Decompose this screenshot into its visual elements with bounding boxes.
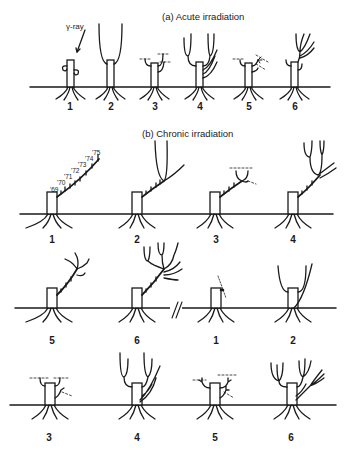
year-label: '75 xyxy=(92,149,100,156)
year-label: '74 xyxy=(85,155,93,162)
stage-label: 1 xyxy=(213,335,219,346)
plant-a1 xyxy=(56,30,85,100)
stage-label: 4 xyxy=(134,432,140,443)
panel-b-title: (b) Chronic irradiation xyxy=(142,128,233,139)
year-label: '71 xyxy=(64,173,72,180)
stage-label: 6 xyxy=(288,432,294,443)
stage-label: 6 xyxy=(292,101,298,112)
stage-label: 3 xyxy=(152,101,158,112)
stage-label: 6 xyxy=(134,335,140,346)
stage-label: 1 xyxy=(49,234,55,245)
panel-a-title: (a) Acute irradiation xyxy=(162,11,244,22)
stage-label: 2 xyxy=(108,101,114,112)
stage-label: 1 xyxy=(67,101,73,112)
gamma-ray-label: γ-ray xyxy=(66,22,84,31)
stage-label: 4 xyxy=(290,234,296,245)
stage-label: 5 xyxy=(246,101,252,112)
stage-label: 4 xyxy=(197,101,203,112)
year-label: '70 xyxy=(57,179,65,186)
stage-label: 5 xyxy=(212,432,218,443)
year-label: '73 xyxy=(78,161,86,168)
year-label: '72 xyxy=(71,167,79,174)
stage-label: 3 xyxy=(46,432,52,443)
stage-label: 2 xyxy=(290,335,296,346)
year-label: '69 xyxy=(50,186,58,193)
stage-label: 2 xyxy=(134,234,140,245)
stage-label: 5 xyxy=(49,335,55,346)
figure-drawing xyxy=(0,0,355,454)
stage-label: 3 xyxy=(213,234,219,245)
